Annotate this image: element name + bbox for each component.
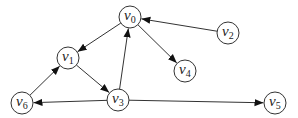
edge-v3-to-v5 xyxy=(129,100,264,103)
node-v2: v2 xyxy=(217,22,239,44)
edge-v6-to-v1 xyxy=(30,66,60,95)
edge-v1-to-v3 xyxy=(76,65,109,93)
edge-v3-to-v6 xyxy=(33,100,107,102)
edge-v3-to-v0 xyxy=(120,28,129,89)
node-v5: v5 xyxy=(264,92,286,114)
node-v3: v3 xyxy=(107,89,129,111)
node-v0: v0 xyxy=(119,6,141,28)
node-v1: v1 xyxy=(57,47,79,69)
edge-v2-to-v0 xyxy=(141,19,217,31)
edge-v0-to-v1 xyxy=(78,23,121,52)
edge-v0-to-v4 xyxy=(138,25,177,63)
node-v6: v6 xyxy=(11,92,33,114)
node-layer: v0v1v2v3v4v5v6 xyxy=(11,6,286,114)
node-v4: v4 xyxy=(174,60,196,82)
directed-graph: v0v1v2v3v4v5v6 xyxy=(0,0,298,118)
